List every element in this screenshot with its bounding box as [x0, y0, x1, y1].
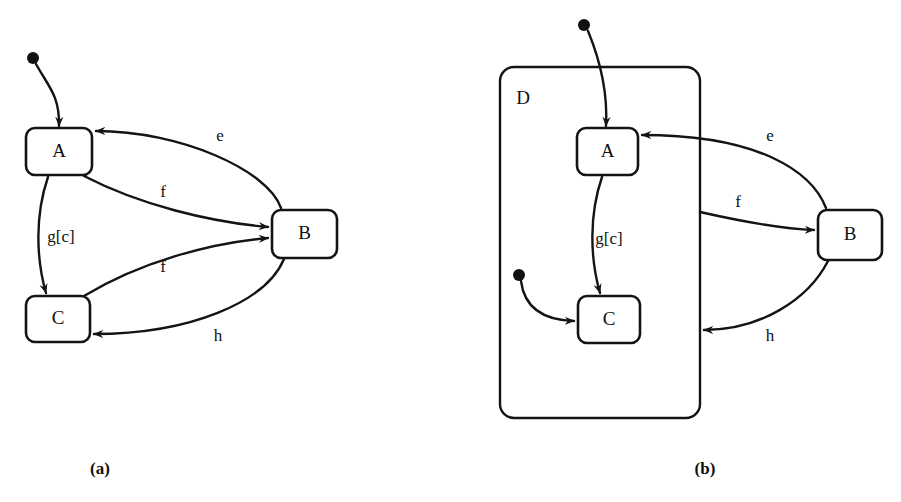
transition-init-a-to-A: [36, 64, 59, 126]
figure-root: efg[c]fhABC(a) Defg[c]hABC(b): [0, 0, 901, 502]
initial-pseudostate-init-a: [27, 52, 39, 64]
transition-B-to-A: [96, 131, 281, 208]
transition-label-gc: g[c]: [47, 227, 74, 246]
panel-caption-a: (a): [90, 459, 110, 478]
transition-label-h: h: [214, 326, 223, 345]
transition-B-to-A: [642, 135, 826, 208]
initial-pseudostate-init-b-inner: [513, 269, 525, 281]
panel-caption-b: (b): [695, 459, 716, 478]
state-label-A: A: [52, 140, 66, 161]
transition-label-f: f: [160, 182, 166, 201]
panel-a: efg[c]fhABC(a): [26, 52, 337, 478]
transition-label-gc: g[c]: [595, 229, 622, 248]
transition-init-b-outer-to-A: [588, 31, 606, 126]
transition-label-e: e: [766, 126, 774, 145]
composite-state-label-D: D: [516, 87, 530, 108]
transition-label-f: f: [160, 257, 166, 276]
state-label-A: A: [601, 140, 615, 161]
state-label-C: C: [603, 308, 616, 329]
state-machine-diagram-canvas: efg[c]fhABC(a) Defg[c]hABC(b): [0, 0, 901, 502]
initial-pseudostate-init-b-outer: [578, 19, 590, 31]
transition-B-to-C: [94, 259, 284, 334]
state-label-C: C: [52, 307, 65, 328]
transition-C-to-B: [84, 238, 268, 296]
transition-label-f: f: [735, 192, 741, 211]
transition-B-to-D: [704, 261, 828, 330]
state-label-B: B: [844, 223, 857, 244]
transition-label-h: h: [766, 326, 775, 345]
transition-label-e: e: [216, 126, 224, 145]
panel-b: Defg[c]hABC(b): [500, 19, 882, 478]
state-label-B: B: [298, 222, 311, 243]
transition-D-to-B: [700, 212, 814, 230]
transition-A-to-B: [84, 176, 268, 227]
transition-init-b-inner-to-C: [521, 281, 574, 321]
